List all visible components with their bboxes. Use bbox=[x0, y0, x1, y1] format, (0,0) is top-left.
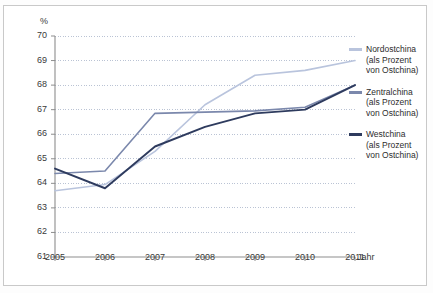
series-lines bbox=[55, 61, 355, 191]
y-axis-tick-label: 66 bbox=[23, 128, 47, 138]
chart-legend: Nordostchina(als Prozentvon Ostchina)Zen… bbox=[349, 44, 431, 172]
legend-series-subtitle: von Ostchina) bbox=[366, 108, 431, 119]
gridlines bbox=[55, 36, 355, 232]
legend-series-name: Nordostchina bbox=[366, 44, 416, 55]
y-axis-tick-label: 70 bbox=[23, 30, 47, 40]
legend-series-subtitle: von Ostchina) bbox=[366, 150, 431, 161]
x-axis-tick-label: 2005 bbox=[35, 252, 75, 262]
y-axis-tick-label: 67 bbox=[23, 104, 47, 114]
legend-entry: Nordostchina(als Prozentvon Ostchina) bbox=[349, 44, 431, 76]
y-tick-marks bbox=[51, 36, 55, 257]
y-axis-tick-label: 69 bbox=[23, 55, 47, 65]
legend-series-subtitle: (als Prozent bbox=[366, 97, 431, 108]
legend-entry: Westchina(als Prozentvon Ostchina) bbox=[349, 129, 431, 161]
x-axis-tick-label: 2006 bbox=[85, 252, 125, 262]
y-axis-tick-label: 63 bbox=[23, 202, 47, 212]
x-axis-tick-label: 2010 bbox=[285, 252, 325, 262]
series-line bbox=[55, 85, 355, 173]
legend-color-swatch bbox=[349, 91, 362, 94]
legend-series-subtitle: von Ostchina) bbox=[366, 65, 431, 76]
y-axis-tick-label: 64 bbox=[23, 177, 47, 187]
legend-series-subtitle: (als Prozent bbox=[366, 55, 431, 66]
y-axis-tick-label: 68 bbox=[23, 79, 47, 89]
x-axis-tick-label: 2008 bbox=[185, 252, 225, 262]
legend-color-swatch bbox=[349, 48, 362, 51]
y-axis-tick-label: 62 bbox=[23, 226, 47, 236]
x-axis-tick-label: 2011 bbox=[335, 252, 375, 262]
x-axis-tick-label: 2007 bbox=[135, 252, 175, 262]
series-line bbox=[55, 85, 355, 188]
legend-series-name: Westchina bbox=[366, 129, 406, 140]
legend-entry: Zentralchina(als Prozentvon Ostchina) bbox=[349, 87, 431, 119]
y-axis-tick-label: 65 bbox=[23, 153, 47, 163]
chart-figure: % Jahr 61626364656667686970 200520062007… bbox=[0, 0, 433, 293]
x-axis-tick-label: 2009 bbox=[235, 252, 275, 262]
legend-series-name: Zentralchina bbox=[366, 87, 413, 98]
legend-color-swatch bbox=[349, 133, 362, 136]
legend-series-subtitle: (als Prozent bbox=[366, 140, 431, 151]
